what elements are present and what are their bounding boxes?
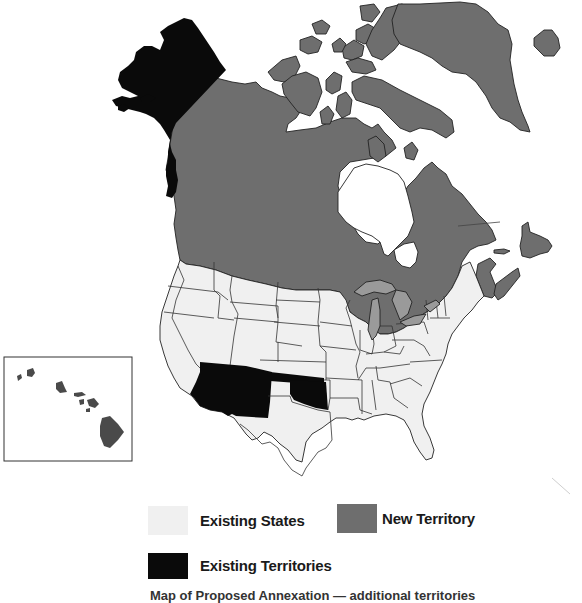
legend-swatch-existing-territories xyxy=(148,553,188,579)
legend-label-existing-states: Existing States xyxy=(200,512,305,529)
legend-label-existing-territories: Existing Territories xyxy=(200,557,332,574)
paper-artifact xyxy=(552,478,570,494)
hawaii-inset xyxy=(4,357,132,461)
map-caption-truncated: Map of Proposed Annexation — additional … xyxy=(150,588,475,603)
legend-swatch-existing-states xyxy=(148,506,188,535)
new-territory-iceland xyxy=(534,30,560,56)
legend-swatch-new-territory xyxy=(337,504,377,533)
legend-label-new-territory: New Territory xyxy=(382,510,475,527)
